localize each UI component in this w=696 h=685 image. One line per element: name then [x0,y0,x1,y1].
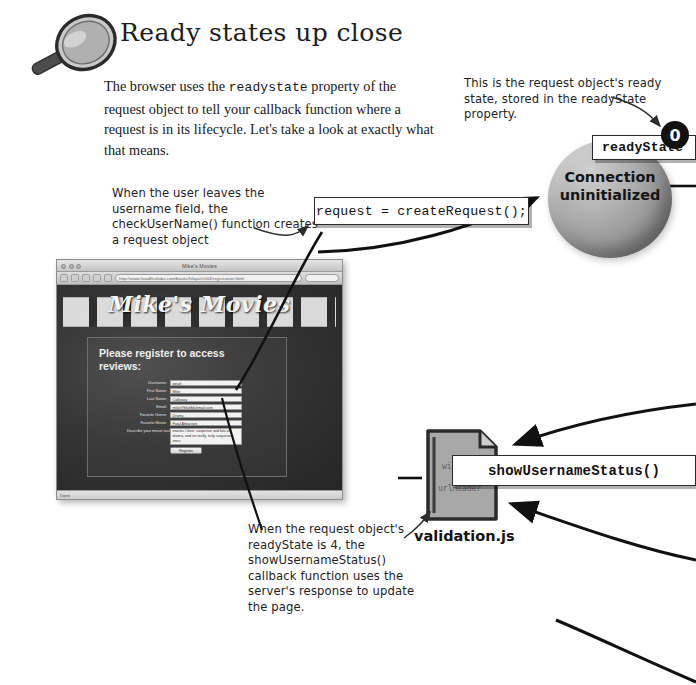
validation-js-label: validation.js [414,528,514,544]
back-button[interactable] [60,274,68,282]
form-row: First Name: Mike [127,388,277,394]
favorite-movie-field[interactable]: Fatal Attraction [170,420,242,426]
field-label-first-name: First Name: [127,388,167,394]
field-label-username: Username: [127,380,167,386]
annotation-ready-state-four: When the request object's readyState is … [248,522,428,616]
field-label-movie-tastes: Describe your movie tastes: [127,428,167,434]
last-name-field[interactable]: Calloway [170,396,242,402]
sphere-label-line-2: uninitialized [552,186,668,204]
line-lower-right-edge [556,620,696,682]
field-label-last-name: Last Name: [127,396,167,402]
movie-tastes-textarea[interactable]: movies I love: suspense and lots of dram… [170,428,242,445]
site-logo: Mike's Movies [57,291,342,317]
form-row: Username: jonah [127,380,277,386]
browser-window-screenshot: Mike's Movies http://www.headfirstlabs.c… [56,259,343,500]
form-row: Describe your movie tastes: movies I lov… [127,428,277,445]
browser-status-bar: Done [57,490,342,500]
ready-state-badge: 0 [661,121,689,149]
field-label-email: Email: [127,404,167,410]
ready-state-sphere-label: Connection uninitialized [552,168,668,204]
form-row: Favorite Movie: Fatal Attraction [127,420,277,426]
window-traffic-lights [61,264,81,269]
browser-window-title: Mike's Movies [57,260,342,272]
show-username-status-callout: showUsernameStatus() [452,455,696,486]
inline-code-readystate: readystate [229,80,308,95]
sphere-label-line-1: Connection [552,168,668,186]
form-row: Favorite Genre: Drama [127,412,277,418]
annotation-ready-state: This is the request object's ready state… [464,76,664,123]
field-label-favorite-movie: Favorite Movie: [127,420,167,426]
registration-form: Username: jonah First Name: Mike Last Na… [127,380,277,454]
browser-viewport: Mike's Movies Please register to access … [57,285,342,490]
home-icon[interactable] [104,274,112,282]
annotation-leave-field: When the user leaves the username field,… [112,186,322,248]
body-paragraph: The browser uses the readystate property… [104,76,440,160]
arrow-right-to-showusernamestatus-top [516,404,696,444]
create-request-callout: request = createRequest(); [314,197,529,225]
search-input[interactable] [305,274,339,282]
address-bar[interactable]: http://www.headfirstlabs.com/books/hfaja… [115,274,302,282]
page-title: Ready states up close [120,18,403,47]
form-row: Last Name: Calloway [127,396,277,402]
registration-heading: Please register to access reviews: [99,347,249,373]
browser-toolbar: http://www.headfirstlabs.com/books/hfaja… [57,272,342,285]
stop-button[interactable] [82,274,90,282]
reload-icon[interactable] [93,274,101,282]
body-text-before: The browser uses the [104,78,229,94]
form-row: Email: mike@blahblahmail.com [127,404,277,410]
first-name-field[interactable]: Mike [170,388,242,394]
forward-button[interactable] [71,274,79,282]
email-field[interactable]: mike@blahblahmail.com [170,404,242,410]
browser-titlebar: Mike's Movies [57,260,342,272]
arrow-right-to-file-icon [512,504,696,560]
register-button[interactable]: Register [170,447,202,454]
book-page: Ready states up close The browser uses t… [0,0,696,685]
field-label-favorite-genre: Favorite Genre: [127,412,167,418]
username-field[interactable]: jonah [170,380,242,386]
favorite-genre-field[interactable]: Drama [170,412,242,418]
